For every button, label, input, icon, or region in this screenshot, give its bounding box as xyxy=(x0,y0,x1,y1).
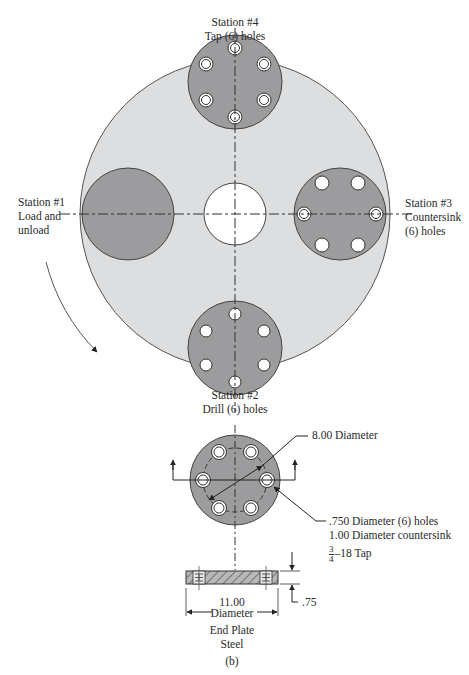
station-3-label: Station #3 Countersink (6) holes xyxy=(405,196,461,238)
figure-caption: (b) xyxy=(182,654,282,668)
station-1-desc-line2: unload xyxy=(18,223,65,237)
station-1-label: Station #1 Load and unload xyxy=(18,195,65,237)
station-2-label: Station #2 Drill (6) holes xyxy=(190,388,280,416)
station-2-title: Station #2 xyxy=(190,388,280,402)
indexing-table-diagram xyxy=(0,0,469,675)
station-3-desc-line1: Countersink xyxy=(405,210,461,224)
station-3-title: Station #3 xyxy=(405,196,461,210)
tap-spec: 3 4 –18 Tap xyxy=(329,545,451,564)
rotation-arrow xyxy=(46,262,97,352)
station-1-title: Station #1 xyxy=(18,195,65,209)
hole-diameter-spec: .750 Diameter (6) holes xyxy=(329,514,451,528)
end-plate-material: Steel xyxy=(182,637,282,651)
hole-spec-label: .750 Diameter (6) holes 1.00 Diameter co… xyxy=(329,514,451,564)
outer-diameter-word: Diameter xyxy=(197,606,267,620)
end-plate-top-view xyxy=(173,425,326,570)
station-4-label: Station #4 Tap (6) holes xyxy=(200,15,270,43)
bolt-circle-diameter-label: 8.00 Diameter xyxy=(312,428,378,442)
tap-fraction: 3 4 xyxy=(329,545,334,564)
station-4-title: Station #4 xyxy=(200,15,270,29)
end-plate-name: End Plate xyxy=(182,623,282,637)
station-1-desc-line1: Load and xyxy=(18,209,65,223)
station-4-desc: Tap (6) holes xyxy=(200,29,270,43)
station-3-desc-line2: (6) holes xyxy=(405,224,461,238)
tap-suffix: –18 Tap xyxy=(335,547,372,559)
countersink-spec: 1.00 Diameter countersink xyxy=(329,528,451,542)
station-2-desc: Drill (6) holes xyxy=(190,402,280,416)
thickness-label: .75 xyxy=(302,595,316,609)
